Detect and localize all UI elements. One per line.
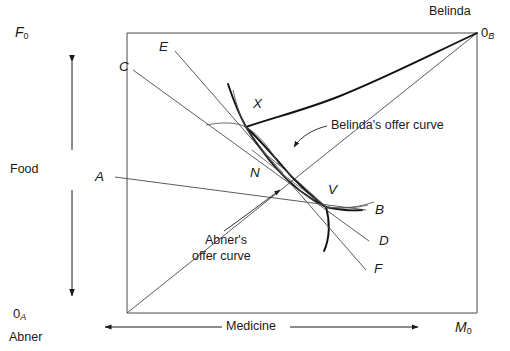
medicine-axis-label: Medicine (226, 320, 276, 333)
abners-offer-curve-leader (224, 190, 280, 231)
box-diagonal (127, 33, 477, 313)
food-axis-top-symbol: F0 (15, 24, 29, 40)
abners-offer-curve-label-line1: Abner's (205, 234, 247, 247)
point-label-n: N (250, 166, 260, 180)
food-axis-label: Food (10, 163, 39, 176)
price-line-ef (175, 51, 366, 270)
abners-offer-curve-label-line2: offer curve (192, 250, 251, 263)
abner-name-label: Abner (9, 331, 42, 344)
price-line-cd (133, 70, 369, 241)
point-label-x: X (253, 97, 262, 111)
medicine-axis-right-symbol: M0 (455, 319, 472, 335)
price-line-label-c: C (119, 60, 129, 74)
belinda-origin-label: 0B (481, 24, 494, 40)
edgeworth-box-figure: F0 Food 0A Abner Belinda 0B M0 Medicine … (0, 0, 510, 351)
price-line-label-f: F (374, 262, 382, 276)
price-line-label-d: D (379, 234, 389, 248)
price-line-label-a: A (95, 170, 104, 184)
belinda-name-label: Belinda (429, 5, 471, 18)
point-label-v: V (328, 183, 337, 197)
belindas-offer-curve-label: Belinda's offer curve (331, 119, 444, 132)
belindas-offer-curve-leader (294, 126, 327, 147)
abner-origin-label: 0A (13, 305, 26, 321)
price-line-label-e: E (159, 40, 168, 54)
price-line-label-b: B (375, 203, 384, 217)
